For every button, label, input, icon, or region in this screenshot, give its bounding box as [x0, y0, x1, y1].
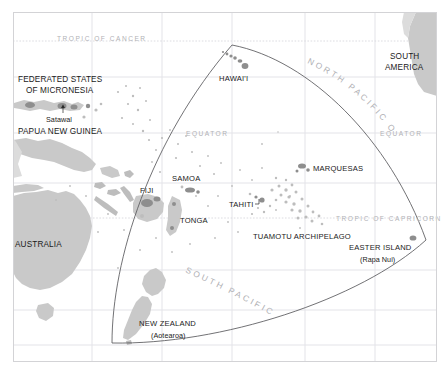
tuamotu-atoll [275, 177, 277, 179]
tuamotu-atoll [270, 188, 273, 191]
atoll-dot [161, 137, 163, 139]
atoll-dot [251, 179, 253, 181]
atoll-dot [121, 117, 123, 119]
map-container: TROPIC OF CANCER EQUATOR EQUATOR TROPIC … [0, 0, 448, 374]
label-samoa: SAMOA [172, 174, 201, 183]
society-islet [249, 193, 252, 196]
atoll-dot [261, 167, 263, 169]
label-south-america-line2: AMERICA [385, 63, 424, 72]
label-fiji: FIJI [140, 186, 153, 195]
atoll-dot [214, 237, 216, 239]
atoll-dot [217, 195, 219, 197]
label-tuamotu-archipelago: TUAMOTU ARCHIPELAGO [253, 232, 351, 241]
tuamotu-atoll [318, 215, 321, 218]
label-federated-states-of-micronesia-line1: FEDERATED STATES [18, 75, 103, 84]
tuamotu-atoll [284, 200, 287, 203]
equator-label-left: EQUATOR [186, 130, 229, 138]
atoll-dot [148, 139, 150, 141]
tuamotu-atoll [298, 209, 301, 212]
atoll-dot [275, 209, 277, 211]
tuamotu-atoll [278, 185, 281, 188]
atoll-dot [55, 199, 57, 201]
atoll-dot [195, 195, 197, 197]
atoll-dot [299, 227, 301, 229]
tuamotu-atoll [307, 205, 310, 208]
label-tonga: TONGA [180, 216, 209, 225]
tuamotu-atoll [321, 223, 324, 226]
atoll-dot [277, 131, 279, 133]
tuamotu-atoll [312, 211, 315, 214]
tuamotu-atoll [291, 184, 294, 187]
big-island-hawaii [242, 63, 249, 69]
atoll-dot [220, 162, 222, 164]
atoll-dot [149, 119, 151, 121]
ocean-background [0, 0, 448, 374]
label-rapa-nui: (Rapa Nui) [360, 255, 395, 264]
samoa-islet [181, 186, 184, 189]
atoll-dot [231, 185, 233, 187]
atoll-dot [125, 85, 127, 87]
tuamotu-atoll [311, 220, 314, 223]
tuamotu-atoll [301, 198, 304, 201]
atoll-dot [207, 155, 209, 157]
label-tahiti: TAHITI [229, 200, 254, 209]
samoa-islands [185, 187, 195, 192]
marquesas-islet [296, 170, 299, 173]
tuamotu-atoll [269, 205, 271, 207]
atoll-dot [189, 243, 191, 245]
atoll-dot [207, 205, 209, 207]
atoll-dot [227, 221, 229, 223]
hawaii-islet [233, 56, 237, 60]
tuamotu-atoll [292, 202, 295, 205]
tuamotu-atoll [295, 191, 298, 194]
kosrae-island [86, 104, 90, 108]
equator-label-right: EQUATOR [380, 130, 423, 138]
atoll-dot [171, 251, 173, 253]
atoll-dot [69, 185, 71, 187]
atoll-dot [85, 195, 87, 197]
tahiti-island [259, 197, 264, 202]
vanua-levu [154, 197, 161, 202]
atoll-dot [261, 143, 263, 145]
atoll-dot [142, 130, 144, 132]
label-australia: AUSTRALIA [15, 240, 62, 249]
atoll-dot [97, 231, 99, 233]
hawaii-islet [229, 54, 232, 57]
tuamotu-atoll [285, 179, 287, 181]
label-aotearoa: (Aotearoa) [151, 331, 185, 340]
atoll-dot [151, 161, 153, 163]
atoll-dot [177, 143, 179, 145]
tuamotu-atoll [251, 213, 253, 215]
tuamotu-atoll [257, 207, 259, 209]
atoll-dot [155, 149, 157, 151]
atoll-dot [139, 249, 141, 251]
label-satawal: Satawal [46, 115, 72, 124]
atoll-dot [155, 237, 157, 239]
landmass-easter-island [410, 235, 417, 240]
atoll-dot [137, 109, 139, 111]
atoll-dot [237, 231, 239, 233]
atoll-dot [191, 151, 193, 153]
atoll-dot [159, 171, 161, 173]
tuamotu-atoll [263, 211, 265, 213]
pohnpei-island [71, 105, 78, 110]
fiji-islet [140, 214, 144, 218]
atoll-dot [169, 129, 171, 131]
pacific-map-canvas: TROPIC OF CANCER EQUATOR EQUATOR TROPIC … [0, 0, 448, 374]
atoll-dot [139, 87, 141, 89]
tuamotu-atoll [275, 199, 278, 202]
atoll-dot [239, 169, 241, 171]
tuamotu-atoll [287, 195, 290, 198]
tropic-of-capricorn-label: TROPIC OF CAPRICORN [336, 215, 442, 222]
maui-island [238, 59, 243, 62]
hawaii-islet [222, 51, 224, 53]
atoll-dot [175, 157, 177, 159]
atoll-dot [123, 229, 125, 231]
atoll-dot [199, 165, 201, 167]
hawaii-islet [226, 53, 229, 56]
micronesia-islet [94, 108, 97, 111]
label-marquesas: MARQUESAS [313, 164, 363, 173]
atoll-dot [117, 267, 119, 269]
marquesas-islands [298, 163, 306, 168]
label-federated-states-of-micronesia-line2: OF MICRONESIA [26, 86, 94, 95]
